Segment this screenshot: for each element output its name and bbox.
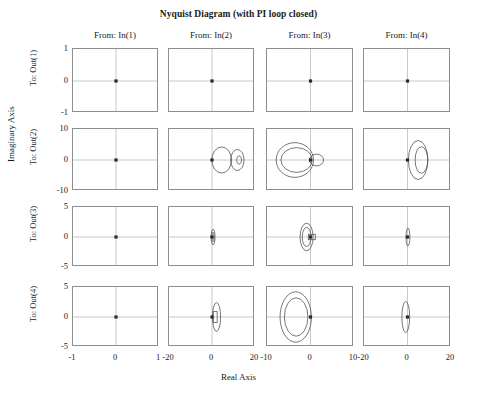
column-header-in-1: From: In(1): [72, 30, 158, 40]
nyquist-figure: Nyquist Diagram (with PI loop closed) Im…: [0, 0, 477, 396]
x-tick-label: 20: [438, 352, 462, 362]
y-tick-label: 0: [46, 75, 68, 85]
y-tick-label: -10: [46, 185, 68, 195]
plot-panel-out2-in1: [72, 128, 158, 190]
plot-panel-out2-in4: [363, 128, 450, 190]
y-tick-label: 5: [46, 201, 68, 211]
plot-panel-out1-in1: [72, 48, 158, 112]
plot-panel-out3-in3: [266, 206, 353, 266]
y-axis-label-text: Imaginary Axis: [6, 148, 16, 162]
y-tick-label: -5: [46, 341, 68, 351]
row-label-text: To: Out(4): [28, 308, 38, 322]
column-header-in-3: From: In(3): [266, 30, 353, 40]
plot-panel-out3-in1: [72, 206, 158, 266]
plot-panel-out4-in4: [363, 286, 450, 346]
y-tick-label: 0: [46, 231, 68, 241]
y-tick-label: 0: [46, 311, 68, 321]
column-header-in-2: From: In(2): [168, 30, 254, 40]
x-tick-label: 0: [199, 352, 223, 362]
row-label-out-3: To: Out(3): [26, 230, 40, 240]
row-label-text: To: Out(2): [28, 151, 38, 165]
x-tick-label: -10: [254, 352, 278, 362]
x-tick-label: 0: [298, 352, 322, 362]
y-tick-label: -5: [46, 261, 68, 271]
row-label-out-4: To: Out(4): [26, 310, 40, 320]
plot-panel-out3-in2: [168, 206, 254, 266]
plot-panel-out1-in2: [168, 48, 254, 112]
y-tick-label: 5: [46, 281, 68, 291]
row-label-text: To: Out(3): [28, 228, 38, 242]
x-tick-label: 0: [103, 352, 127, 362]
plot-panel-out3-in4: [363, 206, 450, 266]
y-tick-label: -1: [46, 107, 68, 117]
y-tick-label: 10: [46, 123, 68, 133]
y-axis-label: Imaginary Axis: [4, 150, 18, 160]
column-header-in-4: From: In(4): [363, 30, 450, 40]
x-tick-label: -20: [351, 352, 375, 362]
y-tick-label: 0: [46, 154, 68, 164]
row-label-text: To: Out(1): [28, 72, 38, 86]
plot-panel-out4-in2: [168, 286, 254, 346]
page-title: Nyquist Diagram (with PI loop closed): [0, 9, 477, 19]
plot-panel-out4-in1: [72, 286, 158, 346]
row-label-out-2: To: Out(2): [26, 153, 40, 163]
y-tick-label: 1: [46, 43, 68, 53]
x-axis-label: Real Axis: [0, 372, 477, 382]
plot-panel-out1-in3: [266, 48, 353, 112]
plot-panel-out2-in3: [266, 128, 353, 190]
row-label-out-1: To: Out(1): [26, 74, 40, 84]
x-tick-label: -1: [60, 352, 84, 362]
plot-panel-out2-in2: [168, 128, 254, 190]
x-tick-label: -20: [156, 352, 180, 362]
plot-panel-out1-in4: [363, 48, 450, 112]
plot-panel-out4-in3: [266, 286, 353, 346]
x-tick-label: 0: [395, 352, 419, 362]
